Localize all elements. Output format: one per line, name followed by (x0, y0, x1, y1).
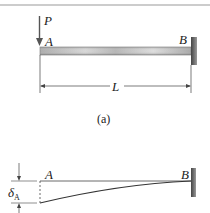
end-b-label-b: B (181, 167, 189, 182)
part-a: P A B L (a) (36, 13, 197, 126)
deflected-curve (40, 181, 191, 203)
part-b: A B δA (8, 163, 196, 213)
length-label: L (111, 79, 119, 94)
load-arrow-icon (36, 16, 43, 46)
fixed-wall (191, 37, 197, 65)
cantilever-beam-diagram: P A B L (a) A B (0, 0, 210, 213)
load-label: P (43, 13, 52, 28)
end-b-label: B (179, 32, 187, 47)
deflection-label: δA (8, 185, 20, 202)
end-a-label-b: A (44, 167, 53, 182)
caption-a: (a) (97, 112, 110, 126)
fixed-wall-b (191, 168, 196, 197)
deflection-dimension (11, 163, 37, 213)
